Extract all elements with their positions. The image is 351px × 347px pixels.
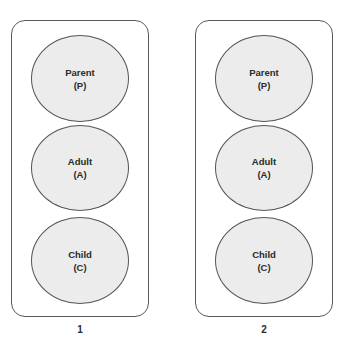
- panel-2-adult-circle: Adult (A): [215, 125, 313, 211]
- panel-1-caption: 1: [70, 324, 90, 335]
- panel-2-parent-circle: Parent (P): [215, 35, 313, 122]
- panel-2-parent-abbr: (P): [258, 79, 271, 92]
- panel-2-child-circle: Child (C): [215, 217, 313, 304]
- panel-1-parent-abbr: (P): [74, 79, 87, 92]
- panel-1-child-label: Child: [68, 248, 92, 261]
- panel-2-child-abbr: (C): [257, 261, 270, 274]
- panel-1-parent-label: Parent: [65, 66, 95, 79]
- panel-2-child-label: Child: [252, 248, 276, 261]
- panel-2-adult-label: Adult: [252, 155, 276, 168]
- panel-2-adult-abbr: (A): [257, 168, 270, 181]
- panel-1-child-abbr: (C): [73, 261, 86, 274]
- panel-1-adult-abbr: (A): [73, 168, 86, 181]
- panel-1-child-circle: Child (C): [31, 217, 129, 304]
- panel-1-adult-label: Adult: [68, 155, 92, 168]
- panel-1-parent-circle: Parent (P): [31, 35, 129, 122]
- panel-2-caption: 2: [254, 324, 274, 335]
- panel-2-parent-label: Parent: [249, 66, 279, 79]
- panel-1-adult-circle: Adult (A): [31, 125, 129, 211]
